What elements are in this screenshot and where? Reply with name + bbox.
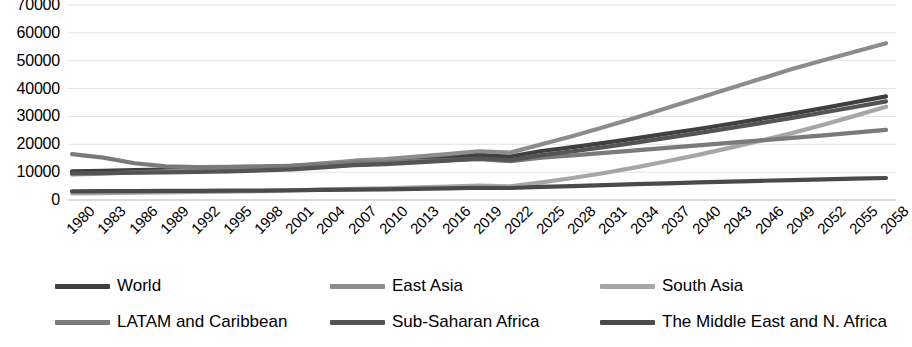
legend-color-swatch bbox=[600, 284, 655, 289]
y-axis-tick-label: 20000 bbox=[17, 136, 61, 152]
x-axis-tick-label: 1998 bbox=[251, 203, 284, 236]
x-axis-tick-label: 2037 bbox=[658, 203, 691, 236]
y-axis-tick-label: 10000 bbox=[17, 164, 61, 180]
x-axis-tick-label: 1983 bbox=[95, 203, 128, 236]
legend-item-label: East Asia bbox=[392, 277, 463, 295]
x-axis-tick-label: 2019 bbox=[470, 203, 503, 236]
x-axis-tick-label: 2043 bbox=[721, 203, 754, 236]
x-axis-tick-label: 2031 bbox=[596, 203, 629, 236]
x-axis-tick-label: 2022 bbox=[502, 203, 535, 236]
series-line bbox=[72, 130, 886, 167]
y-axis: 700006000050000400003000020000100000 bbox=[0, 0, 64, 205]
x-axis-tick-label: 1992 bbox=[189, 203, 222, 236]
y-axis-tick-label: 40000 bbox=[17, 81, 61, 97]
x-axis-tick-label: 2028 bbox=[564, 203, 597, 236]
x-axis-tick-label: 1989 bbox=[157, 203, 190, 236]
y-axis-tick-label: 60000 bbox=[17, 25, 61, 41]
x-axis-tick-label: 2001 bbox=[283, 203, 316, 236]
legend-row-bottom: LATAM and CaribbeanSub-Saharan AfricaThe… bbox=[0, 304, 902, 340]
legend-item-label: LATAM and Caribbean bbox=[117, 313, 287, 331]
plot-area: 700006000050000400003000020000100000 bbox=[0, 0, 902, 215]
legend-item[interactable]: South Asia bbox=[600, 268, 743, 304]
x-axis-tick-label: 2049 bbox=[783, 203, 816, 236]
x-axis-tick-label: 2010 bbox=[376, 203, 409, 236]
legend-color-swatch bbox=[600, 320, 655, 325]
legend-color-swatch bbox=[330, 320, 385, 325]
legend-item-label: Sub-Saharan Africa bbox=[392, 313, 539, 331]
x-axis-tick-label: 2034 bbox=[627, 203, 660, 236]
x-axis-tick-label: 2052 bbox=[815, 203, 848, 236]
x-axis-tick-label: 2046 bbox=[752, 203, 785, 236]
legend-item-label: World bbox=[117, 277, 161, 295]
legend-item[interactable]: Sub-Saharan Africa bbox=[330, 304, 539, 340]
x-axis-tick-label: 2004 bbox=[314, 203, 347, 236]
legend-item-label: South Asia bbox=[662, 277, 743, 295]
plot-canvas bbox=[68, 0, 896, 205]
legend-row-top: WorldEast AsiaSouth Asia bbox=[0, 268, 902, 304]
x-axis-tick-label: 2040 bbox=[690, 203, 723, 236]
legend: WorldEast AsiaSouth Asia LATAM and Carib… bbox=[0, 268, 902, 344]
x-axis-tick-label: 1986 bbox=[126, 203, 159, 236]
x-axis-tick-label: 2016 bbox=[439, 203, 472, 236]
x-axis-tick-label: 2025 bbox=[533, 203, 566, 236]
x-axis: 1980198319861989199219951998200120042007… bbox=[68, 203, 896, 265]
legend-item[interactable]: LATAM and Caribbean bbox=[55, 304, 287, 340]
legend-item[interactable]: East Asia bbox=[330, 268, 463, 304]
x-axis-tick-label: 2058 bbox=[877, 203, 910, 236]
x-axis-tick-label: 1995 bbox=[220, 203, 253, 236]
y-axis-tick-label: 30000 bbox=[17, 108, 61, 124]
legend-item[interactable]: The Middle East and N. Africa bbox=[600, 304, 887, 340]
x-axis-tick-label: 2055 bbox=[846, 203, 879, 236]
x-axis-tick-label: 2007 bbox=[345, 203, 378, 236]
legend-color-swatch bbox=[55, 320, 110, 325]
y-axis-tick-label: 70000 bbox=[17, 0, 61, 13]
legend-color-swatch bbox=[330, 284, 385, 289]
y-axis-tick-label: 0 bbox=[51, 192, 60, 208]
legend-item-label: The Middle East and N. Africa bbox=[662, 313, 887, 331]
series-line bbox=[72, 101, 886, 173]
x-axis-tick-label: 2013 bbox=[408, 203, 441, 236]
series-lines bbox=[68, 0, 896, 205]
legend-color-swatch bbox=[55, 284, 110, 289]
x-axis-tick-label: 1980 bbox=[63, 203, 96, 236]
y-axis-tick-label: 50000 bbox=[17, 53, 61, 69]
legend-item[interactable]: World bbox=[55, 268, 161, 304]
